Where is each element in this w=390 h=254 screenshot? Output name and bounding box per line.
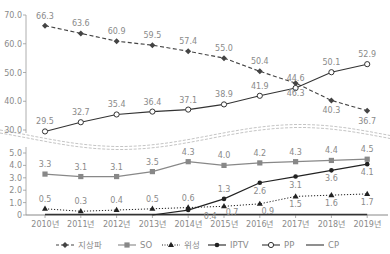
data-label: 46.3	[287, 89, 305, 98]
x-tick-label: 2016년	[246, 219, 273, 229]
legend-label: 지상파	[78, 240, 102, 250]
data-label: 0.5	[39, 195, 52, 204]
data-label: 4.1	[361, 168, 374, 177]
data-label: 32.7	[72, 108, 90, 117]
data-label: 37.1	[179, 96, 197, 105]
square-marker	[124, 242, 129, 247]
dot-marker	[215, 243, 220, 248]
data-label: 36.7	[358, 117, 376, 126]
data-label: 0.4	[204, 212, 217, 221]
data-label: 3.1	[110, 163, 123, 172]
dot-marker	[293, 174, 298, 179]
data-label: 1.3	[218, 185, 231, 194]
x-tick-label: 2017년	[282, 219, 309, 229]
square-marker	[329, 158, 334, 163]
circle-marker	[42, 129, 47, 134]
data-label: 0.5	[146, 195, 159, 204]
legend: 지상파SO위성IPTVPPCP	[56, 240, 339, 250]
data-label: 3.3	[39, 160, 52, 169]
y-tick-label: 2.0	[9, 186, 22, 195]
data-label: 29.5	[36, 117, 54, 126]
data-label: 0.7	[226, 208, 239, 217]
circle-marker	[150, 109, 155, 114]
triangle-marker	[114, 207, 120, 212]
data-label: 35.4	[108, 100, 126, 109]
data-label: 52.9	[358, 50, 376, 59]
y-tick-label: 70.0	[4, 11, 22, 20]
y-tick-label: 0	[17, 211, 22, 220]
data-label: 4.0	[218, 151, 231, 160]
data-label: 60.9	[108, 27, 126, 36]
data-label: 4.3	[182, 148, 195, 157]
legend-label: IPTV	[230, 240, 249, 250]
series-위성	[45, 194, 367, 211]
legend-label: 위성	[184, 240, 200, 250]
diamond-marker	[221, 55, 227, 61]
data-label: 50.1	[322, 58, 340, 67]
y-tick-label: 60.0	[4, 40, 22, 49]
legend-label: CP	[328, 240, 339, 250]
x-tick-label: 2014년	[175, 219, 202, 229]
series-PP	[45, 64, 367, 131]
data-label: 4.3	[289, 148, 302, 157]
square-marker	[257, 160, 262, 165]
x-tick-label: 2011년	[67, 219, 94, 229]
circle-marker	[221, 102, 226, 107]
circle-marker	[257, 93, 262, 98]
triangle-marker	[257, 201, 263, 206]
data-label: 3.5	[146, 158, 159, 167]
circle-marker	[186, 107, 191, 112]
triangle-marker	[328, 192, 334, 197]
data-label: 4.5	[361, 145, 374, 154]
data-label: 36.4	[143, 98, 161, 107]
legend-label: PP	[284, 240, 294, 250]
legend-label: SO	[140, 240, 152, 250]
diamond-marker	[62, 242, 68, 248]
dot-marker	[186, 208, 191, 213]
y-tick-label: 40.0	[4, 97, 22, 106]
triangle-marker	[42, 206, 48, 211]
circle-marker	[365, 62, 370, 67]
square-marker	[150, 169, 155, 174]
square-marker	[365, 157, 370, 162]
legend-item: SO	[118, 240, 152, 250]
dot-marker	[365, 162, 370, 167]
data-label: 0.9	[261, 207, 274, 216]
y-tick-label: 1.0	[9, 199, 22, 208]
data-label: 59.5	[143, 31, 161, 40]
data-label: 3.6	[325, 174, 338, 183]
square-marker	[221, 163, 226, 168]
data-label: 4.4	[325, 146, 338, 155]
data-label: 66.3	[36, 12, 54, 21]
data-label: 0.4	[110, 196, 123, 205]
square-marker	[186, 159, 191, 164]
line-chart: 70.060.050.040.030.05.04.03.02.01.002010…	[0, 0, 390, 254]
triangle-marker	[168, 242, 174, 247]
data-label: 1.5	[289, 200, 302, 209]
data-label: 3.1	[74, 163, 87, 172]
data-label: 38.9	[215, 90, 233, 99]
data-label: 55.0	[215, 44, 233, 53]
y-tick-label: 5.0	[9, 149, 22, 158]
x-tick-label: 2010년	[31, 219, 58, 229]
data-label: 41.9	[251, 82, 269, 91]
data-labels: 66.363.660.959.557.455.050.446.340.336.7…	[36, 12, 376, 221]
x-tick-label: 2013년	[139, 219, 166, 229]
dot-marker	[222, 197, 227, 202]
data-label: 50.4	[251, 57, 269, 66]
dot-marker	[329, 168, 334, 173]
series-SO	[45, 159, 367, 176]
triangle-marker	[364, 191, 370, 196]
square-marker	[293, 159, 298, 164]
legend-item: PP	[262, 240, 294, 250]
data-label: 3.1	[289, 181, 302, 190]
square-marker	[114, 174, 119, 179]
diamond-marker	[78, 30, 84, 36]
diamond-marker	[328, 97, 334, 103]
square-marker	[78, 174, 83, 179]
diamond-marker	[114, 38, 120, 44]
y-tick-label: 3.0	[9, 174, 22, 183]
legend-item: 지상파	[56, 240, 102, 250]
diamond-marker	[149, 42, 155, 48]
data-label: 1.6	[325, 199, 338, 208]
